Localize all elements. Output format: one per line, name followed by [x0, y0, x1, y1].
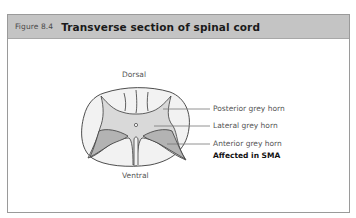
affected-in-sma-note: Affected in SMA [213, 151, 280, 160]
dorsal-label: Dorsal [122, 70, 146, 79]
spinal-cord-diagram [0, 0, 356, 218]
ventral-median-fissure [134, 137, 138, 165]
lateral-grey-horn-label: Lateral grey horn [213, 121, 278, 130]
ventral-label: Ventral [122, 171, 149, 180]
central-canal [134, 123, 137, 126]
anterior-grey-horn-label: Anterior grey horn [213, 139, 282, 148]
posterior-grey-horn-label: Posterior grey horn [213, 104, 285, 113]
